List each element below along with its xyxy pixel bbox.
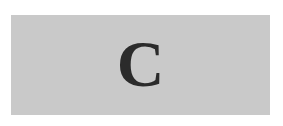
panel-letter: C xyxy=(11,15,270,115)
label-panel: C xyxy=(11,15,270,115)
